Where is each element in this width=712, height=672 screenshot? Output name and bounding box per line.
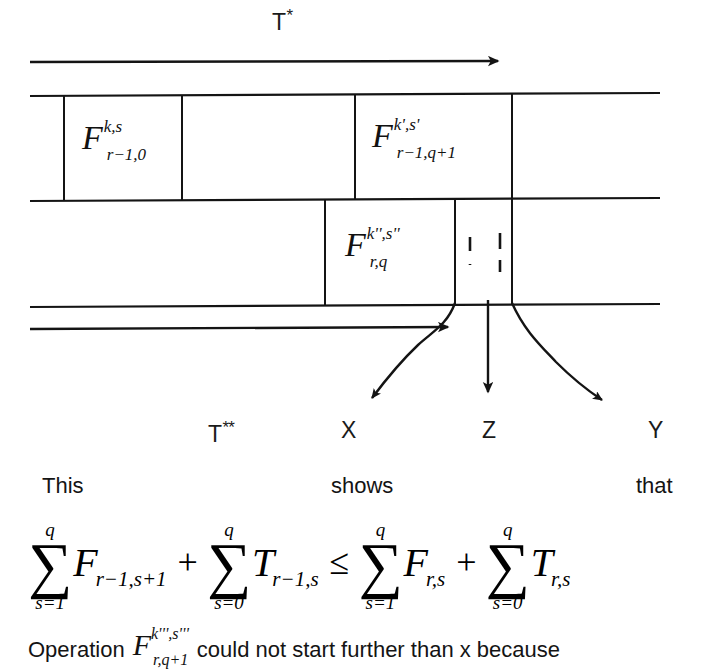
caption-word-that: that bbox=[636, 473, 673, 499]
label-t-star-text: T bbox=[272, 9, 287, 35]
sigma-glyph-icon: ∑ bbox=[358, 539, 402, 592]
summand-variable: F bbox=[404, 540, 428, 585]
sigma-lower-limit: s=0 bbox=[493, 593, 523, 612]
summand-subscript: r,s bbox=[426, 567, 445, 591]
operation-f-r-minus-1-q-plus-1: Fk',s'r−1,q+1 bbox=[372, 119, 453, 161]
figure-canvas: T* Fk,sr−1,0 Fk',s'r−1,q+1 Fk'',s''r,q T… bbox=[0, 0, 712, 672]
sigma-1: q ∑ s=1 bbox=[28, 520, 72, 612]
operator-less-equal: ≤ bbox=[330, 541, 350, 583]
label-t-double-star-text: T bbox=[208, 421, 223, 447]
sum-term-3: q ∑ s=1 Fr,s bbox=[358, 520, 447, 612]
summand-4: Tr,s bbox=[531, 539, 573, 586]
sigma-lower-limit: s=0 bbox=[214, 593, 244, 612]
operation-superscript: k,s bbox=[104, 118, 143, 136]
label-x: X bbox=[341, 417, 357, 444]
summand-subscript: r−1,s+1 bbox=[96, 567, 167, 591]
operation-subscript: r,q bbox=[370, 253, 403, 271]
operation-f-r-q: Fk'',s''r,q bbox=[345, 228, 400, 270]
label-t-double-star-marks: ** bbox=[223, 418, 234, 437]
operation-f-r-minus-1-0: Fk,sr−1,0 bbox=[82, 121, 143, 163]
sigma-2: q ∑ s=0 bbox=[207, 520, 251, 612]
operation-base-letter: F bbox=[372, 117, 393, 154]
summand-variable: T bbox=[252, 540, 274, 585]
footnote-operation-f-r-q-plus-1: Fk''',s'''r,q+1 bbox=[133, 628, 189, 668]
summand-variable: F bbox=[73, 540, 97, 585]
summand-variable: T bbox=[531, 540, 553, 585]
summand-subscript: r−1,s bbox=[272, 567, 318, 591]
operation-subscript: r−1,q+1 bbox=[397, 144, 456, 162]
sum-term-1: q ∑ s=1 Fr−1,s+1 bbox=[28, 520, 169, 612]
operation-base-letter: F bbox=[82, 119, 103, 156]
label-y: Y bbox=[648, 417, 664, 444]
operation-superscript: k''',s''' bbox=[151, 626, 189, 643]
t-star-arrow bbox=[30, 61, 498, 62]
dashed-interval-markers bbox=[470, 233, 500, 272]
operation-subscript: r−1,0 bbox=[107, 146, 146, 164]
summand-2: Tr−1,s bbox=[252, 539, 321, 586]
label-z-text: Z bbox=[482, 417, 497, 443]
t-double-star-arrow bbox=[30, 327, 448, 329]
operator-plus-2: + bbox=[456, 541, 476, 583]
operation-superscript: k'',s'' bbox=[367, 225, 400, 243]
operation-base-letter: F bbox=[133, 628, 151, 661]
operation-base-letter: F bbox=[345, 226, 366, 263]
sigma-glyph-icon: ∑ bbox=[28, 539, 72, 592]
sigma-lower-limit: s=1 bbox=[35, 593, 65, 612]
schedule-row-2-rails bbox=[30, 304, 660, 307]
sigma-lower-limit: s=1 bbox=[366, 593, 396, 612]
sigma-4: q ∑ s=0 bbox=[486, 520, 530, 612]
operation-superscript: k',s' bbox=[394, 116, 453, 134]
curve-arrow-to-y bbox=[512, 303, 602, 400]
caption-word-shows: shows bbox=[331, 473, 393, 499]
caption-word-this: This bbox=[42, 473, 84, 499]
curve-arrow-to-x bbox=[372, 303, 455, 398]
summand-subscript: r,s bbox=[551, 567, 570, 591]
footnote-sentence: Operation Fk''',s'''r,q+1 could not star… bbox=[28, 630, 560, 670]
label-t-star-marks: * bbox=[287, 6, 293, 25]
sum-term-2: q ∑ s=0 Tr−1,s bbox=[207, 520, 321, 612]
sigma-glyph-icon: ∑ bbox=[207, 539, 251, 592]
summand-1: Fr−1,s+1 bbox=[73, 539, 168, 586]
operation-subscript: r,q+1 bbox=[153, 652, 191, 669]
operator-plus-1: + bbox=[178, 541, 198, 583]
label-z: Z bbox=[482, 417, 497, 444]
footnote-tail-text: could not start further than x because bbox=[197, 637, 560, 663]
footnote-lead-text: Operation bbox=[28, 637, 125, 663]
sigma-glyph-icon: ∑ bbox=[486, 539, 530, 592]
sigma-3: q ∑ s=1 bbox=[358, 520, 402, 612]
label-y-text: Y bbox=[648, 417, 664, 443]
label-t-star: T* bbox=[272, 6, 292, 36]
inequality-formula: q ∑ s=1 Fr−1,s+1 + q ∑ s=0 Tr−1,s ≤ q ∑ … bbox=[28, 520, 572, 612]
sum-term-4: q ∑ s=0 Tr,s bbox=[486, 520, 573, 612]
label-x-text: X bbox=[341, 417, 357, 443]
label-t-double-star: T** bbox=[208, 418, 234, 448]
summand-3: Fr,s bbox=[404, 539, 448, 586]
